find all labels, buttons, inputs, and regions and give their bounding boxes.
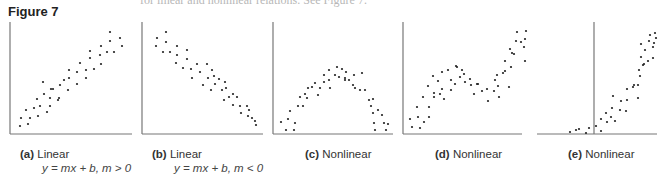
data-point bbox=[504, 60, 506, 62]
data-point bbox=[652, 46, 654, 48]
data-point bbox=[509, 48, 511, 50]
data-point bbox=[255, 124, 257, 126]
data-point bbox=[433, 92, 435, 94]
data-point bbox=[411, 126, 413, 128]
data-point bbox=[441, 88, 443, 90]
data-point bbox=[637, 84, 639, 86]
data-point bbox=[625, 110, 627, 112]
data-point bbox=[648, 40, 650, 42]
data-point bbox=[345, 71, 347, 73]
data-point bbox=[481, 90, 483, 92]
data-point bbox=[190, 68, 192, 70]
data-point bbox=[314, 82, 316, 84]
data-point bbox=[224, 81, 226, 83]
data-point bbox=[299, 96, 301, 98]
caption-letter: (e) bbox=[568, 148, 582, 160]
data-point bbox=[524, 60, 526, 62]
caption-letter: (c) bbox=[305, 148, 319, 160]
data-point bbox=[370, 105, 372, 107]
data-point bbox=[348, 79, 350, 81]
data-point bbox=[450, 79, 452, 81]
data-point bbox=[381, 114, 383, 116]
data-point bbox=[513, 53, 515, 55]
data-point bbox=[364, 89, 366, 91]
data-point bbox=[76, 71, 78, 73]
data-point bbox=[246, 105, 248, 107]
data-point bbox=[20, 117, 22, 119]
data-point bbox=[504, 70, 506, 72]
data-point bbox=[428, 106, 430, 108]
data-point bbox=[515, 40, 517, 42]
caption-e: (e) Nonlinear bbox=[568, 147, 635, 161]
data-point bbox=[334, 74, 336, 76]
data-point bbox=[373, 122, 375, 124]
data-point bbox=[297, 105, 299, 107]
data-point bbox=[619, 109, 621, 111]
data-point bbox=[423, 121, 425, 123]
data-point bbox=[341, 68, 343, 70]
data-point bbox=[626, 99, 628, 101]
data-point bbox=[37, 115, 39, 117]
data-point bbox=[85, 69, 87, 71]
data-point bbox=[307, 87, 309, 89]
data-point bbox=[106, 51, 108, 53]
data-point bbox=[338, 76, 340, 78]
data-point bbox=[254, 120, 256, 122]
data-point bbox=[175, 62, 177, 64]
data-point bbox=[409, 118, 411, 120]
data-point bbox=[214, 83, 216, 85]
data-point bbox=[620, 100, 622, 102]
data-point bbox=[450, 89, 452, 91]
data-point bbox=[352, 84, 354, 86]
data-point bbox=[109, 31, 111, 33]
data-point bbox=[79, 62, 81, 64]
data-point bbox=[654, 32, 656, 34]
data-point bbox=[344, 79, 346, 81]
data-point bbox=[169, 51, 171, 53]
data-point bbox=[304, 93, 306, 95]
data-point bbox=[52, 88, 54, 90]
data-point bbox=[439, 93, 441, 95]
data-point bbox=[182, 67, 184, 69]
data-point bbox=[43, 93, 45, 95]
data-point bbox=[496, 74, 498, 76]
points-group bbox=[19, 30, 657, 134]
data-point bbox=[302, 105, 304, 107]
data-point bbox=[640, 56, 642, 58]
data-point bbox=[511, 52, 513, 54]
data-point bbox=[57, 99, 59, 101]
data-point bbox=[89, 50, 91, 52]
data-point bbox=[247, 115, 249, 117]
data-point bbox=[306, 97, 308, 99]
data-point bbox=[113, 51, 115, 53]
data-point bbox=[228, 96, 230, 98]
data-point bbox=[353, 74, 355, 76]
data-point bbox=[29, 117, 31, 119]
data-point bbox=[497, 85, 499, 87]
caption-b: (b) Linear y = mx + b, m < 0 bbox=[152, 147, 263, 175]
data-point bbox=[632, 86, 634, 88]
data-point bbox=[633, 84, 635, 86]
data-point bbox=[49, 97, 51, 99]
data-point bbox=[626, 88, 628, 90]
caption-letter: (b) bbox=[152, 148, 167, 160]
data-point bbox=[156, 37, 158, 39]
data-point bbox=[42, 81, 44, 83]
data-point bbox=[464, 81, 466, 83]
data-point bbox=[317, 94, 319, 96]
data-point bbox=[213, 75, 215, 77]
data-point bbox=[251, 117, 253, 119]
data-point bbox=[487, 100, 489, 102]
data-point bbox=[605, 112, 607, 114]
caption-title: Nonlinear bbox=[585, 148, 634, 160]
caption-a: (a) Linear y = mx + b, m > 0 bbox=[20, 147, 131, 175]
data-point bbox=[287, 118, 289, 120]
data-point bbox=[121, 45, 123, 47]
data-point bbox=[155, 45, 157, 47]
data-point bbox=[27, 123, 29, 125]
caption-letter: (a) bbox=[20, 148, 34, 160]
data-point bbox=[196, 63, 198, 65]
data-point bbox=[328, 69, 330, 71]
data-point bbox=[516, 31, 518, 33]
data-point bbox=[223, 99, 225, 101]
